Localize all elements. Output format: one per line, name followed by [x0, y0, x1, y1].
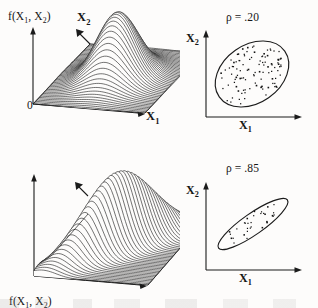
axis-vertical-bottom [31, 174, 37, 276]
surface-mesh-uncorrelated [33, 12, 202, 113]
scatter-point [253, 215, 254, 216]
scatter-point [265, 56, 266, 57]
annotation-rho-low: ρ = .20 [226, 12, 259, 24]
scatter-point [246, 238, 247, 239]
scatter-point [280, 66, 281, 67]
scatter-point [249, 59, 250, 60]
scatter-point [236, 77, 238, 79]
axis-vertical-top [30, 27, 36, 104]
scatter-point [267, 66, 269, 68]
scatter-point [261, 56, 262, 57]
scatter-point [233, 66, 234, 67]
scatter-point [244, 222, 245, 223]
scatter-point [259, 64, 260, 65]
scatter-point [228, 85, 229, 86]
scatter-point [233, 62, 235, 64]
scatter-point [260, 213, 261, 214]
scatter-point [250, 228, 251, 229]
scatter-point [220, 72, 222, 74]
axis-vertical-scatter-bottom [203, 182, 209, 270]
scatter-point [253, 45, 254, 46]
scatter-point [241, 93, 242, 94]
scatter-point [248, 69, 250, 71]
scatter-point [237, 75, 238, 76]
scatter-point [252, 47, 253, 48]
scatter-point [273, 216, 274, 217]
scatter-point [245, 79, 246, 80]
scatter-point [227, 100, 228, 101]
scatter-point [277, 70, 278, 71]
scatter-point [244, 92, 245, 93]
scatter-point [271, 71, 272, 72]
scatter-point [238, 90, 240, 92]
scatter-point [275, 78, 276, 79]
scatter-point [244, 55, 245, 56]
ellipse-boundary-rho-low [203, 27, 302, 120]
ellipse-boundary-rho-high [213, 191, 294, 256]
scatter-point [236, 68, 237, 69]
scatter-point [255, 72, 256, 73]
scatter-point [233, 238, 234, 239]
axis-label-density-bottom: f(X1, X2) [9, 296, 52, 308]
scatter-point [263, 53, 265, 55]
scatter-point [259, 71, 261, 73]
scatter-point [243, 90, 244, 91]
scatter-point [239, 78, 241, 80]
axis-depth-bottom [75, 182, 88, 196]
scatter-point [255, 82, 256, 83]
scatter-point [251, 57, 252, 58]
scatter-point [232, 97, 233, 98]
scatter-point [267, 206, 269, 208]
panel-scatter-rho-low: ρ = .20 X2 X1 [180, 0, 318, 150]
scatter-point [261, 211, 262, 212]
scatter-point [241, 78, 242, 79]
scatter-point [254, 211, 255, 212]
scatter-point [221, 77, 222, 78]
scatter-point [264, 213, 266, 215]
annotation-rho-high: ρ = .85 [226, 163, 259, 175]
scatter-point [263, 213, 264, 214]
axis-label-x1-scatter-bottom: X1 [239, 272, 252, 288]
scatter-point [274, 214, 275, 215]
scatter-point [256, 85, 258, 87]
scatter-point [265, 62, 266, 63]
scatter-point [265, 94, 266, 95]
scatter-point [247, 228, 248, 229]
scatter-point [277, 62, 278, 63]
scatter-point [280, 74, 281, 75]
scatter-point [234, 82, 235, 83]
scatter-point [280, 58, 282, 60]
scatter-point [274, 83, 275, 84]
scatter-point [239, 99, 240, 100]
scatter-point [260, 60, 261, 61]
scatter-point [236, 228, 237, 229]
axis-label-x1-top: X1 [146, 110, 160, 125]
scatter-point [278, 51, 279, 52]
scatter-point [240, 103, 241, 104]
scatter-point [270, 48, 271, 49]
scatter-point [278, 59, 280, 61]
scatter-point [242, 64, 243, 65]
scatter-point [251, 222, 252, 223]
scatter-point [225, 69, 226, 70]
scatter-point [240, 70, 241, 71]
scatter-point [272, 78, 274, 80]
axis-label-x2-top: X2 [77, 11, 91, 26]
scatter-point [244, 54, 245, 55]
scatter-point [278, 63, 280, 65]
axis-label-density-top: f(X1, X2) [8, 11, 51, 25]
axis-label-x2-scatter-bottom: X2 [186, 184, 199, 200]
origin-label-top: 0 [27, 100, 33, 112]
scatter-point [262, 88, 263, 89]
scatter-point [262, 72, 263, 73]
scatter-point [238, 53, 240, 55]
axis-label-x2-scatter-top: X2 [186, 32, 199, 48]
scatter-point [243, 234, 245, 236]
scatter-point [247, 47, 249, 49]
scatter-point [273, 50, 274, 51]
scatter-point [274, 67, 275, 68]
scatter-point [261, 79, 262, 80]
scatter-point [274, 86, 275, 87]
scatter-point [262, 227, 264, 229]
figure-bivariate-normal: f(X1, X2) X2 X1 0 ρ = .20 X2 X1 [0, 0, 318, 308]
